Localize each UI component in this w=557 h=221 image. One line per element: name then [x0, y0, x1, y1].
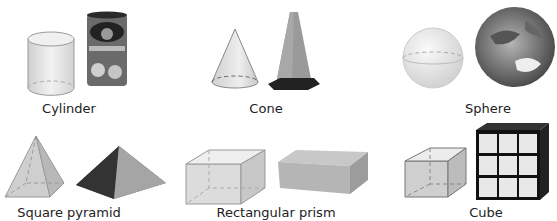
stone-pyramid-photo-icon: [74, 145, 169, 200]
earth-globe-photo-icon: [475, 6, 557, 88]
label-cylinder: Cylinder: [42, 101, 96, 116]
label-cone: Cone: [249, 101, 282, 116]
pyramid-model-icon: [4, 135, 66, 200]
sphere-model-icon: [402, 27, 467, 92]
traffic-cone-photo-icon: [268, 10, 323, 90]
cylinder-model-icon: [27, 30, 87, 100]
label-rectangular-prism: Rectangular prism: [216, 205, 335, 220]
label-square-pyramid: Square pyramid: [17, 205, 121, 220]
can-photo-icon: [86, 10, 131, 90]
label-cube: Cube: [469, 205, 503, 220]
cube-model-icon: [404, 147, 469, 202]
prism-model-icon: [185, 148, 270, 203]
label-sphere: Sphere: [465, 101, 511, 116]
cone-model-icon: [211, 28, 271, 93]
shoe-box-photo-icon: [276, 148, 371, 198]
rubiks-cube-photo-icon: [475, 122, 550, 202]
